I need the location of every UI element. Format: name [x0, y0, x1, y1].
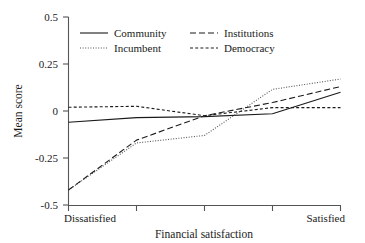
y-tick-label-3: -0.25: [35, 152, 58, 164]
legend-label-democracy: Democracy: [224, 42, 275, 54]
legend-label-community: Community: [114, 27, 167, 39]
y-axis-title: Mean score: [12, 84, 24, 137]
y-tick-label-4: -0.5: [41, 199, 59, 211]
legend-label-incumbent: Incumbent: [114, 42, 161, 54]
x-axis-title: Financial satisfaction: [155, 228, 253, 240]
y-tick-label-0: 0.5: [44, 11, 58, 23]
chart-figure: 0.5 0.25 0 -0.25 -0.5 Dissatisfied Satis…: [0, 0, 365, 243]
x-tick-label-dissatisfied: Dissatisfied: [64, 212, 116, 224]
legend-label-institutions: Institutions: [224, 27, 274, 39]
line-chart: 0.5 0.25 0 -0.25 -0.5 Dissatisfied Satis…: [0, 0, 365, 243]
y-tick-label-2: 0: [53, 105, 59, 117]
y-tick-label-1: 0.25: [39, 58, 59, 70]
x-tick-label-satisfied: Satisfied: [307, 212, 346, 224]
